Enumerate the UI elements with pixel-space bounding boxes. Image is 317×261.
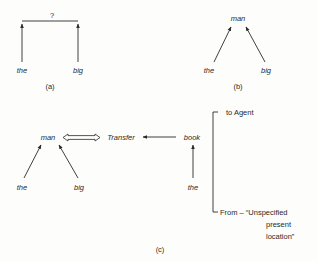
panel-b-word-the: the bbox=[204, 66, 214, 75]
diagram-canvas: ? the big (a) man the big (b) man Transf… bbox=[0, 0, 317, 261]
panel-c-word-the-book: the bbox=[188, 183, 198, 192]
panel-a-word-big: big bbox=[73, 66, 84, 75]
panel-a-root-label: ? bbox=[50, 11, 54, 20]
panel-b-arrow-big-icon bbox=[246, 27, 265, 62]
panel-a: ? the big (a) bbox=[17, 11, 84, 91]
panel-c-word-transfer: Transfer bbox=[107, 133, 135, 142]
panel-b-word-man: man bbox=[231, 14, 246, 23]
panel-c-word-big-man: big bbox=[74, 183, 85, 192]
panel-c-case-from-line3: location” bbox=[266, 232, 295, 241]
panel-c-double-arrow-icon bbox=[63, 134, 100, 141]
panel-c-case-from-line1: From – “Unspecified bbox=[220, 208, 288, 217]
panel-b-caption: (b) bbox=[233, 82, 243, 91]
panel-c: man Transfer book the big the to Agent F… bbox=[17, 108, 295, 254]
panel-c-arrow-the-man-icon bbox=[24, 145, 41, 178]
panel-b-arrow-the-icon bbox=[214, 27, 231, 62]
panel-c-caption: (c) bbox=[156, 245, 165, 254]
panel-c-word-man: man bbox=[41, 133, 56, 142]
dependency-diagram: ? the big (a) man the big (b) man Transf… bbox=[0, 0, 317, 261]
panel-b-word-big: big bbox=[261, 66, 272, 75]
panel-c-word-the-man: the bbox=[17, 183, 27, 192]
panel-c-arrow-big-man-icon bbox=[59, 145, 78, 178]
panel-c-case-from-line2: present bbox=[266, 220, 292, 229]
panel-c-word-book: book bbox=[184, 133, 202, 142]
panel-a-word-the: the bbox=[17, 66, 27, 75]
panel-a-caption: (a) bbox=[45, 82, 55, 91]
panel-c-case-to-agent: to Agent bbox=[226, 108, 254, 117]
panel-b: man the big (b) bbox=[204, 14, 272, 91]
panel-c-case-bracket bbox=[213, 112, 218, 212]
